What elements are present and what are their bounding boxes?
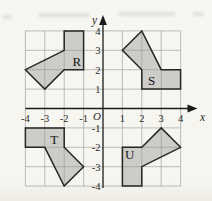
x-axis-label: x <box>199 111 206 123</box>
x-tick-label: 3 <box>159 113 164 124</box>
x-tick-label: 4 <box>178 113 184 124</box>
y-axis-arrowhead-icon <box>99 15 107 25</box>
x-tick-label: -1 <box>79 113 88 124</box>
y-tick-label: -1 <box>92 123 101 134</box>
shape-label-S: S <box>148 73 155 88</box>
shape-label-U: U <box>125 147 135 162</box>
x-tick-label: 1 <box>120 113 125 124</box>
origin-label: O <box>93 110 101 122</box>
shape-label-T: T <box>50 132 58 147</box>
y-tick-label: 1 <box>95 84 100 95</box>
y-tick-label: 3 <box>95 45 100 56</box>
y-tick-label: -4 <box>92 181 101 192</box>
x-tick-label: -2 <box>60 113 69 124</box>
y-tick-label: -3 <box>92 162 101 173</box>
x-tick-label: -4 <box>21 113 30 124</box>
x-tick-label: -3 <box>40 113 49 124</box>
y-tick-label: 2 <box>95 65 100 76</box>
coordinate-grid-figure: RSTUxyO-4-3-2-112344321-1-2-3-4 <box>0 0 212 201</box>
y-tick-label: 4 <box>95 26 101 37</box>
x-tick-label: 2 <box>139 113 144 124</box>
textbook-figure-page: RSTUxyO-4-3-2-112344321-1-2-3-4 <box>0 0 212 201</box>
shape-label-R: R <box>72 54 81 69</box>
x-axis-arrowhead-icon <box>188 105 198 113</box>
y-tick-label: -2 <box>92 142 101 153</box>
